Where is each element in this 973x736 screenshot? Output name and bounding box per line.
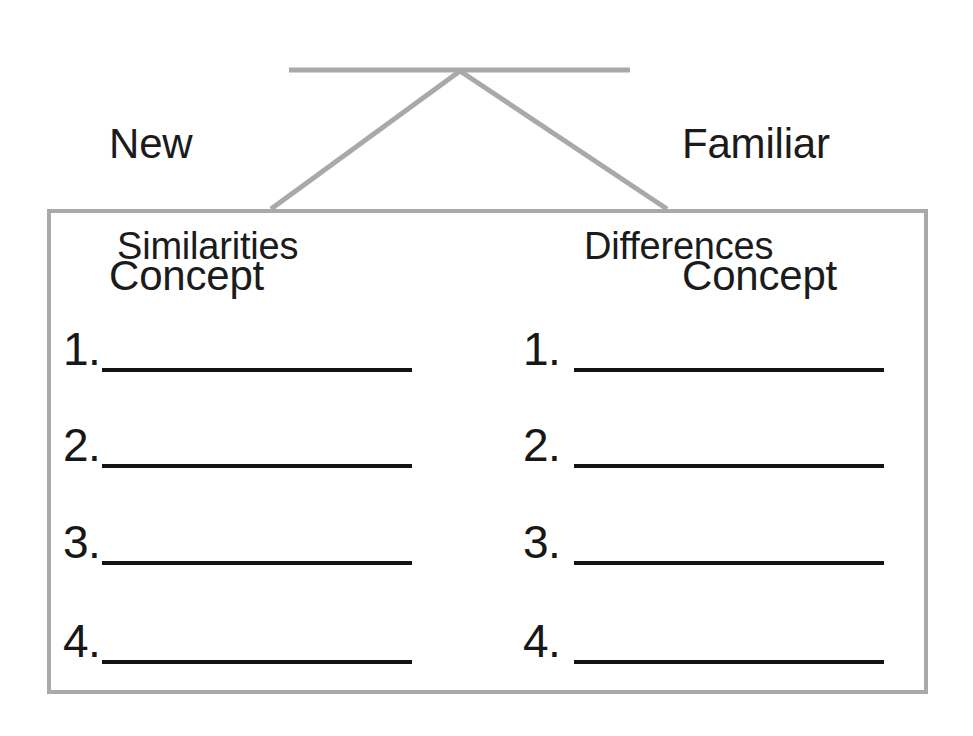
differences-row-1-number: 1.: [523, 326, 560, 372]
similarities-row-3-number: 3.: [63, 519, 100, 565]
differences-row-2-blank[interactable]: [574, 464, 884, 468]
column-header-similarities: Similarities: [117, 224, 298, 268]
new-concept-label-line-1: New: [109, 122, 264, 166]
differences-row-4[interactable]: 4.: [523, 618, 884, 664]
differences-row-3-blank[interactable]: [574, 561, 884, 565]
similarities-row-4-blank[interactable]: [102, 660, 412, 664]
differences-row-1-blank[interactable]: [574, 368, 884, 372]
connector-leg-left: [271, 71, 460, 209]
similarities-row-2-number: 2.: [63, 422, 100, 468]
differences-row-3[interactable]: 3.: [523, 519, 884, 565]
similarities-row-3-blank[interactable]: [102, 561, 412, 565]
graphic-organizer-canvas: New Concept Familiar Concept Similaritie…: [0, 0, 973, 736]
similarities-row-4[interactable]: 4.: [63, 618, 412, 664]
similarities-row-1-number: 1.: [63, 326, 100, 372]
similarities-row-4-number: 4.: [63, 618, 100, 664]
differences-row-4-number: 4.: [523, 618, 560, 664]
differences-row-2[interactable]: 2.: [523, 422, 884, 468]
similarities-row-2-blank[interactable]: [102, 464, 412, 468]
similarities-row-1-blank[interactable]: [102, 368, 412, 372]
similarities-row-2[interactable]: 2.: [63, 422, 412, 468]
differences-row-3-number: 3.: [523, 519, 560, 565]
connector-leg-right: [460, 71, 667, 209]
similarities-row-1[interactable]: 1.: [63, 326, 412, 372]
column-header-differences: Differences: [584, 224, 773, 268]
familiar-concept-label-line-1: Familiar: [682, 122, 837, 166]
differences-row-2-number: 2.: [523, 422, 560, 468]
similarities-row-3[interactable]: 3.: [63, 519, 412, 565]
differences-row-1[interactable]: 1.: [523, 326, 884, 372]
differences-row-4-blank[interactable]: [574, 660, 884, 664]
